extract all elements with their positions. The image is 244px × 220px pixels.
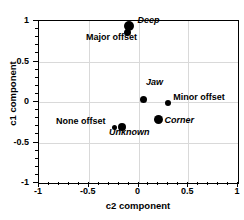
x-tick-minor: [118, 182, 119, 185]
data-point-label: Minor offset: [173, 92, 225, 102]
scatter-chart-figure: -1-0.500.51 10.50-0.5-1 DeepMajor offset…: [0, 0, 244, 220]
y-tick-label: 1: [0, 15, 29, 25]
y-tick-minor: [35, 158, 38, 159]
y-tick-minor: [35, 28, 38, 29]
x-axis-title: c2 component: [38, 200, 238, 211]
x-tick-minor: [68, 182, 69, 185]
x-tick-label: -0.5: [73, 186, 103, 196]
y-tick-minor: [35, 133, 38, 134]
x-tick-label: 0.5: [172, 186, 202, 196]
x-tick-minor: [157, 182, 158, 185]
y-tick-minor: [35, 77, 38, 78]
y-tick-minor: [35, 109, 38, 110]
y-tick-minor: [35, 44, 38, 45]
plot-area: [38, 20, 239, 184]
y-tick-major: [33, 182, 38, 183]
y-tick-minor: [35, 85, 38, 86]
data-point-marker: [165, 100, 171, 106]
x-tick-label: 0: [123, 186, 153, 196]
data-point-marker: [154, 115, 163, 124]
x-tick-minor: [98, 182, 99, 185]
y-tick-minor: [35, 36, 38, 37]
x-tick-minor: [108, 182, 109, 185]
gridline-horizontal: [39, 102, 238, 103]
y-tick-minor: [35, 117, 38, 118]
x-tick-minor: [217, 182, 218, 185]
x-tick-minor: [78, 182, 79, 185]
data-point-label: Major offset: [86, 32, 137, 42]
data-point-label: Deep: [138, 15, 160, 25]
y-tick-label: -1: [0, 177, 29, 187]
y-axis-title: c1 component: [7, 34, 18, 154]
y-tick-major: [33, 20, 38, 21]
data-point-label: Jaw: [146, 77, 163, 87]
x-tick-minor: [58, 182, 59, 185]
gridline-horizontal: [39, 62, 238, 63]
y-tick-major: [33, 61, 38, 62]
x-tick-minor: [207, 182, 208, 185]
y-tick-major: [33, 142, 38, 143]
x-tick-minor: [197, 182, 198, 185]
y-axis-ticks: [32, 20, 38, 183]
x-tick-minor: [227, 182, 228, 185]
y-tick-major: [33, 101, 38, 102]
y-tick-minor: [35, 52, 38, 53]
x-tick-label: -1: [23, 186, 53, 196]
x-tick-minor: [48, 182, 49, 185]
data-point-label: None offset: [56, 116, 106, 126]
data-point-label: Unknown: [109, 127, 150, 137]
y-tick-minor: [35, 93, 38, 94]
x-tick-minor: [177, 182, 178, 185]
data-point-label: Corner: [164, 115, 194, 125]
y-tick-minor: [35, 125, 38, 126]
x-tick-minor: [128, 182, 129, 185]
y-tick-minor: [35, 150, 38, 151]
y-tick-minor: [35, 174, 38, 175]
y-tick-minor: [35, 166, 38, 167]
gridline-horizontal: [39, 143, 238, 144]
x-tick-label: 1: [222, 186, 244, 196]
x-tick-minor: [147, 182, 148, 185]
x-tick-minor: [167, 182, 168, 185]
y-tick-minor: [35, 69, 38, 70]
